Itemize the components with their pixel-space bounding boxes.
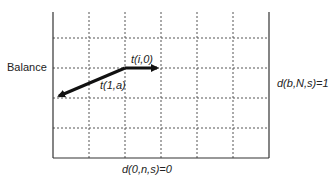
arrow-label-t-1-a: t(1,a) bbox=[100, 79, 126, 91]
balance-label: Balance bbox=[7, 61, 47, 73]
right-boundary-label: d(b,N,s)=1 bbox=[277, 77, 329, 89]
arrow-label-t-i-0: t(i,0) bbox=[131, 53, 153, 65]
grid-diagram bbox=[0, 0, 335, 182]
bottom-boundary-label: d(0,n,s)=0 bbox=[122, 163, 172, 175]
